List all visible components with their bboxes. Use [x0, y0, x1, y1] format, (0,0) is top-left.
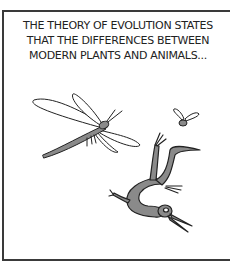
creature-drawing	[109, 133, 200, 232]
fly-drawing	[174, 109, 199, 126]
comic-artwork	[0, 0, 231, 263]
dragonfly-drawing	[33, 94, 140, 158]
